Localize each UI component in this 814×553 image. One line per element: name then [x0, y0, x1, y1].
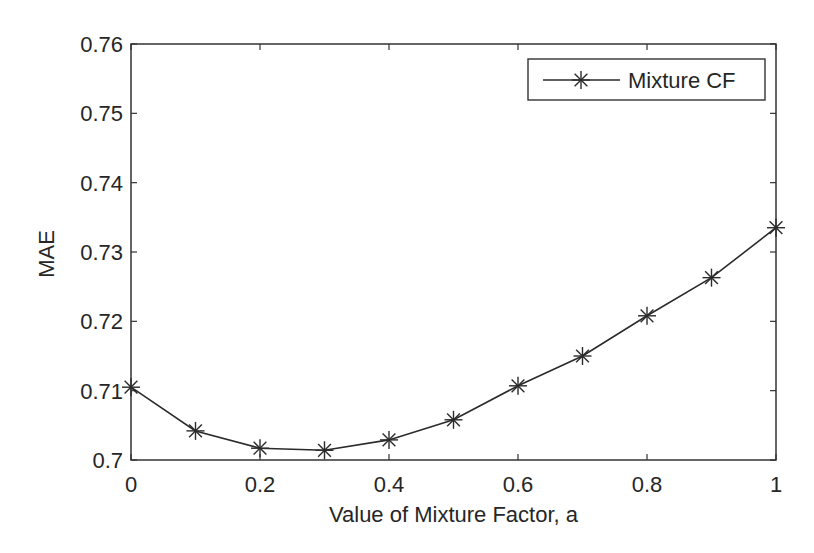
- legend-entry-mixture-cf: Mixture CF: [628, 68, 736, 93]
- asterisk-marker-icon: [251, 439, 269, 457]
- line-chart: 00.20.40.60.81 0.70.710.720.730.740.750.…: [0, 0, 814, 553]
- y-tick-label: 0.71: [80, 379, 123, 404]
- plot-area: [131, 44, 776, 460]
- asterisk-marker-icon: [187, 422, 205, 440]
- asterisk-marker-icon: [572, 71, 590, 89]
- legend: Mixture CF: [528, 59, 765, 100]
- x-tick-label: 0.6: [503, 472, 534, 497]
- x-tick-label: 0: [125, 472, 137, 497]
- asterisk-marker-icon: [638, 307, 656, 325]
- series-layer: [122, 219, 785, 460]
- asterisk-marker-icon: [574, 347, 592, 365]
- asterisk-marker-icon: [767, 219, 785, 237]
- x-axis-label: Value of Mixture Factor, a: [329, 502, 579, 527]
- asterisk-marker-icon: [703, 269, 721, 287]
- y-axis-label: MAE: [34, 230, 59, 278]
- y-tick-label: 0.76: [80, 32, 123, 57]
- asterisk-marker-icon: [509, 377, 527, 395]
- asterisk-marker-icon: [572, 71, 590, 89]
- x-tick-label: 1: [770, 472, 782, 497]
- y-tick-label: 0.72: [80, 309, 123, 334]
- asterisk-marker-icon: [445, 411, 463, 429]
- chart-container: 00.20.40.60.81 0.70.710.720.730.740.750.…: [0, 0, 814, 553]
- x-tick-label: 0.4: [374, 472, 405, 497]
- y-tick-label: 0.73: [80, 240, 123, 265]
- y-tick-label: 0.75: [80, 101, 123, 126]
- asterisk-marker-icon: [316, 441, 334, 459]
- asterisk-marker-icon: [122, 378, 140, 396]
- plot-frame: [131, 44, 776, 460]
- y-tick-label: 0.74: [80, 171, 123, 196]
- x-tick-label: 0.2: [245, 472, 276, 497]
- x-axis-ticks: 00.20.40.60.81: [125, 44, 782, 497]
- asterisk-marker-icon: [380, 431, 398, 449]
- x-tick-label: 0.8: [632, 472, 663, 497]
- y-tick-label: 0.7: [92, 448, 123, 473]
